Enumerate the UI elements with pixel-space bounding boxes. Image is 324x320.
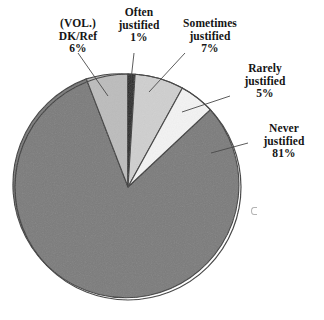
slice-label-sometimes: Sometimes justified 7% (170, 17, 250, 55)
slice-label-rarely: Rarely justified 5% (228, 62, 302, 100)
pie-chart-figure: (VOL.) DK/Ref 6% Often justified 1% Some… (0, 0, 324, 320)
slice-label-rarely-value: 5% (228, 87, 302, 100)
slice-label-never-value: 81% (246, 147, 322, 160)
scan-artifact-mark (251, 207, 257, 215)
slice-label-sometimes-line2: justified (170, 30, 250, 43)
slice-label-never: Never justified 81% (246, 122, 322, 160)
slice-label-rarely-line1: Rarely (228, 62, 302, 75)
slice-label-often-line2: justified (106, 19, 172, 32)
slice-label-sometimes-line1: Sometimes (170, 17, 250, 30)
slice-label-often-value: 1% (106, 31, 172, 44)
slice-label-rarely-line2: justified (228, 75, 302, 88)
slice-label-vol-dkref-line2: DK/Ref (40, 30, 116, 43)
slice-label-vol-dkref-line1: (VOL.) (40, 17, 116, 30)
slice-label-vol-dkref: (VOL.) DK/Ref 6% (40, 17, 116, 55)
slice-label-vol-dkref-value: 6% (40, 42, 116, 55)
slice-label-sometimes-value: 7% (170, 42, 250, 55)
slice-label-never-line2: justified (246, 135, 322, 148)
slice-label-often: Often justified 1% (106, 6, 172, 44)
slice-label-often-line1: Often (106, 6, 172, 19)
slice-label-never-line1: Never (246, 122, 322, 135)
